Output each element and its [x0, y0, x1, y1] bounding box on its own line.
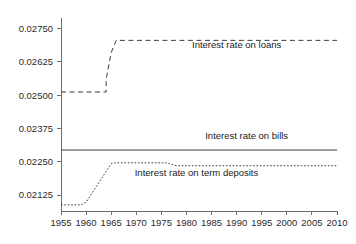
x-tick-label: 1975 [151, 217, 172, 228]
x-tick-label: 2000 [276, 217, 297, 228]
y-tick-label: 0.02375 [19, 123, 53, 134]
x-tick-label: 2005 [301, 217, 322, 228]
series-label-interest-rate-on-bills: Interest rate on bills [205, 130, 288, 141]
chart-container: 0.021250.022500.023750.025000.026250.027… [0, 0, 356, 244]
x-tick-label: 1980 [176, 217, 197, 228]
y-tick-label: 0.02500 [19, 90, 53, 101]
x-tick-label: 1995 [251, 217, 272, 228]
x-tick-label: 1960 [76, 217, 97, 228]
x-tick-label: 1985 [201, 217, 222, 228]
x-tick-label: 1965 [101, 217, 122, 228]
y-tick-label: 0.02250 [19, 156, 53, 167]
x-tick-label: 1990 [226, 217, 247, 228]
y-tick-label: 0.02625 [19, 56, 53, 67]
series-label-interest-rate-on-loans: Interest rate on loans [192, 39, 281, 50]
x-tick-label: 1970 [126, 217, 147, 228]
y-tick-label: 0.02750 [19, 23, 53, 34]
x-tick-label: 1955 [50, 217, 71, 228]
x-tick-label: 2010 [326, 217, 347, 228]
series-label-interest-rate-on-term-deposits: Interest rate on term deposits [135, 167, 259, 178]
y-tick-label: 0.02125 [19, 189, 53, 200]
line-chart: 0.021250.022500.023750.025000.026250.027… [0, 0, 356, 244]
